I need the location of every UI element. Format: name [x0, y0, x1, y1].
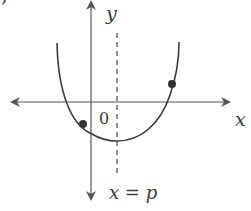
left-point: [79, 120, 87, 128]
origin-label: 0: [99, 109, 109, 128]
symmetry-line-label: x = p: [109, 182, 158, 203]
right-point: [168, 80, 176, 88]
x-axis-label: x: [235, 108, 246, 130]
diagram-canvas: ’ y 0 x x = p: [0, 0, 251, 211]
parabola-diagram: ’ y 0 x x = p: [0, 0, 251, 211]
parabola-curve: [57, 42, 179, 141]
y-axis-label: y: [105, 2, 117, 24]
corner-fragment: ’: [1, 0, 7, 18]
